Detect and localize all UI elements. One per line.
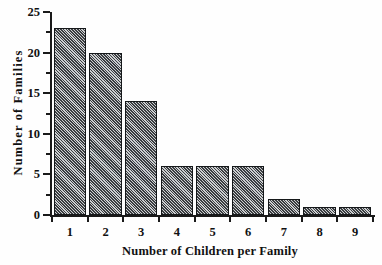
x-axis-tick-label: 7 [281,225,287,240]
x-axis-tick [372,215,374,222]
y-axis-minor-tick [46,113,50,115]
bar [232,166,265,215]
y-axis-title: Number of Families [11,13,26,213]
y-axis-tick-label: 0 [34,208,40,223]
bar [161,166,194,215]
y-axis-minor-tick [46,72,50,74]
x-axis-tick-label: 4 [174,225,180,240]
bar [196,166,229,215]
y-axis-tick [43,173,50,175]
y-axis-minor-tick [46,153,50,155]
y-axis-line [50,12,52,216]
x-axis-tick [87,215,89,222]
x-axis-tick [265,215,267,222]
x-axis-tick-label: 3 [138,225,144,240]
x-axis-tick-label: 6 [245,225,251,240]
plot-area: 0510152025 123456789 [52,12,373,215]
x-axis-tick-label: 5 [209,225,215,240]
x-axis-tick [194,215,196,222]
y-axis-tick [43,52,50,54]
x-axis-tick-label: 8 [316,225,322,240]
y-axis-tick [43,11,50,13]
bar [54,28,87,215]
x-axis-tick [229,215,231,222]
bar [268,199,301,215]
bar [125,101,158,215]
y-axis-tick-label: 5 [34,167,40,182]
x-axis-tick-label: 1 [67,225,73,240]
x-axis-tick-label: 2 [102,225,108,240]
y-axis-tick [43,214,50,216]
x-axis-tick [301,215,303,222]
y-axis-tick-label: 25 [28,5,41,20]
y-axis-tick-label: 10 [28,126,41,141]
y-axis-minor-tick [46,31,50,33]
x-axis-line [50,215,375,217]
bar [339,207,372,215]
bar-chart: Number of Families 0510152025 123456789 … [0,0,382,265]
y-axis-tick-label: 20 [28,45,41,60]
bar [303,207,336,215]
x-axis-tick-label: 9 [352,225,358,240]
y-axis-tick [43,133,50,135]
y-axis-tick [43,92,50,94]
bar [89,53,122,215]
x-axis-tick [51,215,53,222]
x-axis-title: Number of Children per Family [45,244,375,259]
x-axis-tick [336,215,338,222]
x-axis-tick [158,215,160,222]
y-axis-minor-tick [46,194,50,196]
y-axis-tick-label: 15 [28,86,41,101]
x-axis-tick [122,215,124,222]
